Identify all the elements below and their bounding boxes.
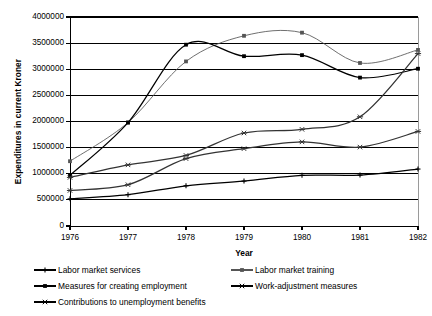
chart-legend: Labor market servicesLabor market traini… <box>34 263 422 311</box>
data-point-plus-marker <box>126 192 131 197</box>
legend-item-label: Measures for creating employment <box>58 281 187 291</box>
data-point-square-marker <box>240 268 244 272</box>
legend-item[interactable]: Labor market services <box>34 263 140 277</box>
series-0 <box>68 167 421 202</box>
data-point-cross-marker <box>299 127 305 131</box>
data-point-plus-marker <box>184 183 189 188</box>
data-point-square-marker <box>43 284 47 288</box>
data-point-square-marker <box>300 53 304 57</box>
data-point-square-marker <box>416 48 420 52</box>
data-point-square-marker <box>184 60 188 64</box>
data-point-plus-marker <box>68 196 73 201</box>
legend-marker-square-icon <box>231 265 253 275</box>
data-point-square-marker <box>242 34 246 38</box>
data-point-cross-marker <box>415 51 421 55</box>
data-point-square-marker <box>358 61 362 65</box>
data-point-plus-marker <box>242 179 247 184</box>
series-line <box>70 54 418 178</box>
data-point-square-marker <box>416 67 420 71</box>
legend-marker-cross-icon <box>231 281 253 291</box>
series-line <box>70 41 418 175</box>
data-point-square-marker <box>126 121 130 125</box>
legend-item-label: Contributions to unemployment benefits <box>58 297 206 307</box>
data-point-cross-marker <box>241 146 247 150</box>
legend-marker-cross-icon <box>34 297 56 307</box>
legend-marker-plus-icon <box>34 265 56 275</box>
data-point-square-marker <box>242 54 246 58</box>
legend-item[interactable]: Measures for creating employment <box>34 279 187 293</box>
data-point-plus-marker <box>358 173 363 178</box>
data-point-square-marker <box>68 159 72 163</box>
data-point-plus-marker <box>300 173 305 178</box>
series-3 <box>67 51 421 179</box>
legend-item[interactable]: Labor market training <box>231 263 334 277</box>
data-point-cross-marker <box>357 115 363 119</box>
legend-item-label: Work-adjustment measures <box>255 281 357 291</box>
data-point-cross-marker <box>357 145 363 149</box>
data-point-square-marker <box>358 76 362 80</box>
data-point-cross-marker <box>239 284 245 288</box>
legend-marker-square-icon <box>34 281 56 291</box>
legend-item-label: Labor market training <box>255 265 334 275</box>
data-point-cross-marker <box>415 129 421 133</box>
data-point-square-marker <box>184 43 188 47</box>
legend-item-label: Labor market services <box>58 265 140 275</box>
data-point-plus-marker <box>416 167 421 172</box>
series-line <box>70 30 418 161</box>
legend-item[interactable]: Work-adjustment measures <box>231 279 357 293</box>
data-point-cross-marker <box>125 182 131 186</box>
legend-item[interactable]: Contributions to unemployment benefits <box>34 295 206 309</box>
data-point-cross-marker <box>125 163 131 167</box>
data-point-cross-marker <box>299 140 305 144</box>
series-2 <box>68 41 420 177</box>
series-line <box>70 169 418 199</box>
data-point-cross-marker <box>67 188 73 192</box>
data-point-cross-marker <box>241 131 247 135</box>
data-point-cross-marker <box>42 300 48 304</box>
data-point-square-marker <box>300 31 304 35</box>
series-1 <box>68 30 420 163</box>
data-point-plus-marker <box>43 268 48 273</box>
data-point-cross-marker <box>183 156 189 160</box>
